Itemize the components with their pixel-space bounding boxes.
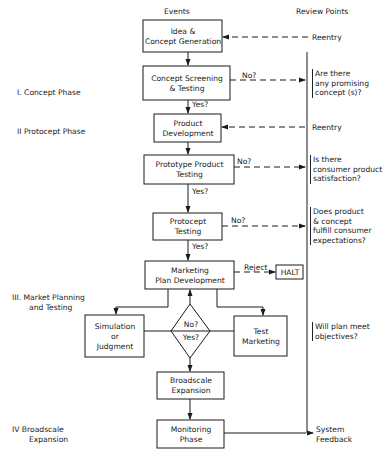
phase-3-label: III. Market Planning and Testing (12, 293, 85, 312)
monitoring-label: MonitoringPhase (157, 420, 225, 449)
decision-yes: Yes? (176, 333, 206, 343)
edge-yes-3: Yes? (192, 242, 208, 252)
prototype-label: Prototype ProductTesting (144, 155, 235, 185)
review-question-1: Are thereany promisingconcept (s)? (312, 69, 369, 98)
phase-4-text-2: Expansion (12, 435, 68, 444)
idea-label: Idea &Concept Generation (143, 20, 223, 53)
edge-no-2: No? (237, 157, 251, 167)
header-review-points: Review Points (296, 7, 348, 17)
edge-yes-1: Yes? (192, 100, 208, 110)
phase-2-numeral: II (17, 127, 21, 136)
review-reentry-1: Reentry (312, 33, 342, 43)
review-question-2: Is thereconsumer productsatisfaction? (310, 155, 382, 184)
review-system-feedback: SystemFeedback (316, 425, 352, 444)
review-question-4: Will plan meetobjectives? (312, 322, 370, 341)
product-dev-label: ProductDevelopment (154, 114, 222, 143)
broadscale-label: BroadscaleExpansion (157, 372, 225, 400)
halt-label: HALT (276, 265, 304, 280)
marketing-plan-label: MarketingPlan Development (145, 261, 235, 290)
edge-reject: Reject (244, 263, 268, 273)
protocept-label: ProtoceptTesting (153, 213, 223, 241)
review-reentry-2: Reentry (312, 123, 342, 133)
simulation-label: SimulationorJudgment (85, 315, 145, 358)
phase-1-numeral: I. (17, 88, 22, 97)
review-question-3: Does product& conceptfulfill consumerexp… (310, 207, 372, 245)
phase-4-label: IV Broadscale Expansion (12, 425, 68, 444)
phase-4-numeral: IV (12, 425, 19, 434)
phase-3-text-2: and Testing (12, 303, 72, 312)
phase-1-text: Concept Phase (24, 88, 81, 97)
screening-label: Concept Screening& Testing (143, 66, 231, 101)
phase-3-text-1: Market Planning (24, 293, 85, 302)
header-events: Events (164, 7, 190, 17)
phase-4-text-1: Broadscale (22, 425, 64, 434)
phase-3-numeral: III. (12, 293, 21, 302)
phase-2-text: Protocept Phase (24, 127, 85, 136)
edge-no-1: No? (242, 71, 256, 81)
test-marketing-label: TestMarketing (234, 316, 288, 357)
edge-no-3: No? (231, 216, 245, 226)
edge-yes-2: Yes? (192, 187, 208, 197)
phase-2-label: II Protocept Phase (17, 127, 85, 137)
decision-no: No? (176, 320, 206, 330)
phase-1-label: I. Concept Phase (17, 88, 81, 98)
